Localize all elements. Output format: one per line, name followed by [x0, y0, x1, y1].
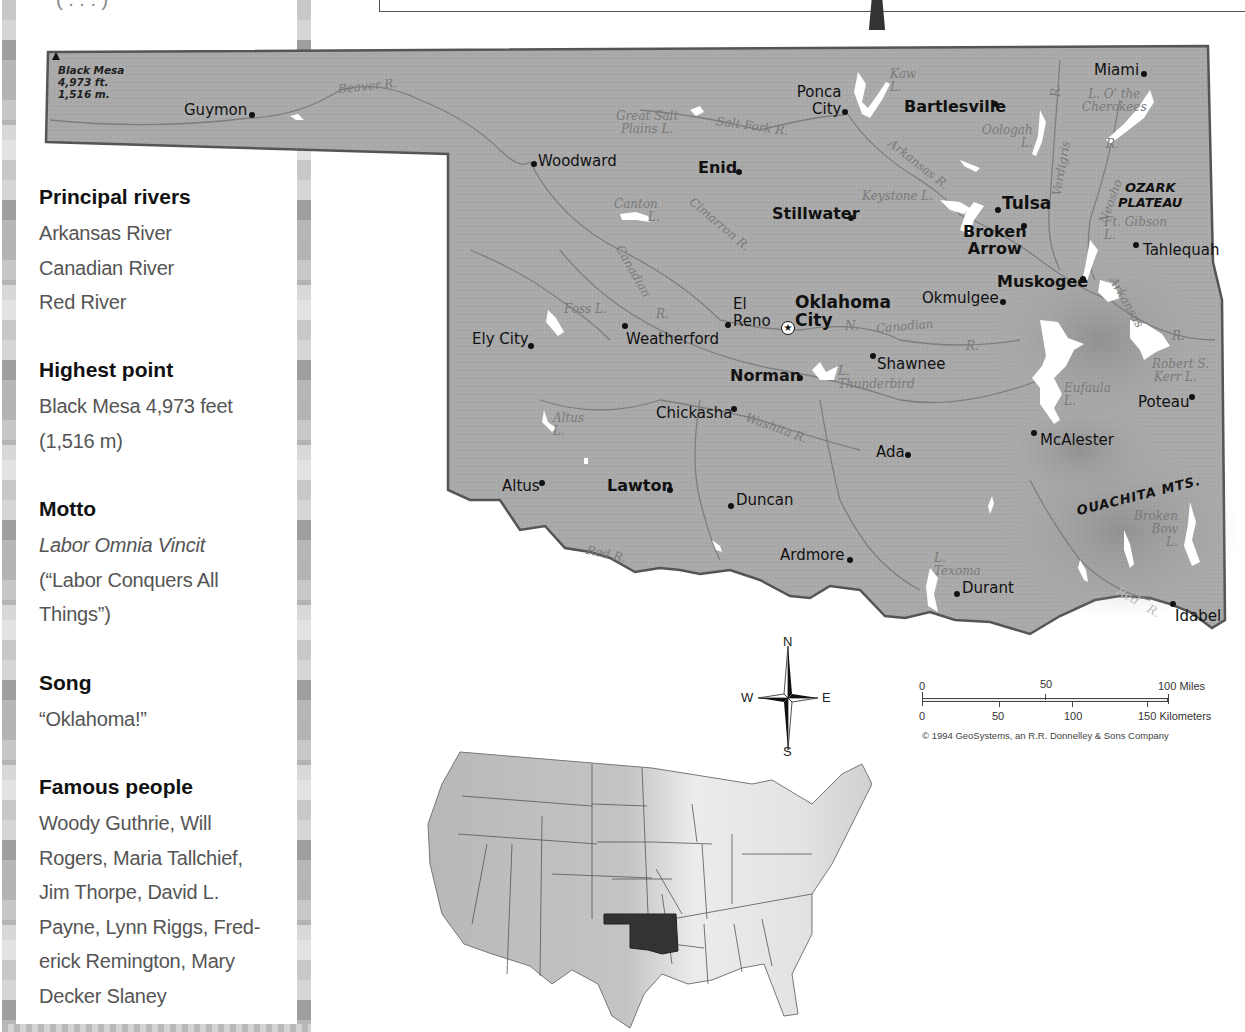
city-dot-icon: [622, 323, 628, 329]
fact-line: Jim Thorpe, David L.: [39, 875, 299, 910]
scale-km-150: 150 Kilometers: [1138, 710, 1211, 722]
fact-heading: Principal rivers: [39, 184, 299, 210]
city-dot-icon: [1141, 71, 1147, 77]
city-ardmore: Ardmore: [780, 547, 845, 564]
lake-label: Broken Bow L.: [1134, 510, 1178, 549]
fact-line: Black Mesa 4,973 feet: [39, 389, 299, 424]
city-miami: Miami: [1094, 62, 1139, 79]
fact-heading: Song: [39, 670, 299, 696]
lake-label: Ft. Gibson L.: [1104, 216, 1167, 242]
fact-line: (1,516 m): [39, 424, 299, 459]
city-mcalester: McAlester: [1040, 432, 1114, 449]
compass-north-label: N: [783, 634, 792, 649]
river-label: R.: [966, 340, 979, 353]
fact-line: Canadian River: [39, 251, 299, 286]
city-dot-icon: [1031, 430, 1037, 436]
fact-line: Red River: [39, 285, 299, 320]
fact-line: Things”): [39, 597, 299, 632]
fact-line: Rogers, Maria Tallchief,: [39, 841, 299, 876]
city-duncan: Duncan: [736, 492, 794, 509]
city-ada: Ada: [876, 444, 905, 461]
city-dot-icon: [1000, 299, 1006, 305]
copyright-notice: © 1994 GeoSystems, an R.R. Donnelley & S…: [922, 730, 1169, 741]
city-dot-icon: [954, 591, 960, 597]
city-norman: Norman: [730, 367, 801, 384]
fact-highest-point: Highest point Black Mesa 4,973 feet (1,5…: [39, 357, 299, 458]
scale-tick: [999, 702, 1000, 707]
river-label: Salt Fork R.: [715, 115, 789, 138]
city-tahlequah: Tahlequah: [1143, 242, 1220, 259]
city-dot-icon: [905, 452, 911, 458]
fact-heading: Highest point: [39, 357, 299, 383]
fact-line: erick Remington, Mary: [39, 944, 299, 979]
river-label: R.: [1106, 138, 1119, 151]
compass-rose: N S E W: [738, 632, 838, 762]
city-stillwater: Stillwater: [772, 205, 860, 222]
fact-heading: Motto: [39, 496, 299, 522]
city-altus: Altus: [502, 478, 540, 495]
city-weatherford: Weatherford: [626, 331, 719, 348]
river-label: Arkansas: [1106, 275, 1145, 330]
us-outline: [412, 744, 872, 1032]
river-label: R.: [656, 308, 669, 321]
river-label: R.: [1050, 84, 1063, 97]
top-frame-box: [379, 0, 1245, 12]
city-poteau: Poteau: [1138, 394, 1190, 411]
scale-tick: [1045, 694, 1046, 700]
river-label: Cimarron R.: [687, 196, 753, 254]
fact-heading: Famous people: [39, 774, 299, 800]
city-tulsa: Tulsa: [1002, 195, 1051, 212]
scale-tick: [1147, 702, 1148, 707]
scale-tick: [1168, 694, 1169, 704]
city-enid: Enid: [698, 159, 737, 176]
city-guymon: Guymon: [184, 102, 247, 119]
city-woodward: Woodward: [538, 153, 617, 170]
scale-miles-100: 100 Miles: [1158, 680, 1205, 692]
city-dot-icon: [847, 557, 853, 563]
city-dot-icon: [995, 207, 1001, 213]
city-dot-icon: [1189, 394, 1195, 400]
city-lawton: Lawton: [607, 477, 673, 494]
river-label: Arkansas R.: [886, 137, 951, 192]
fact-line: Labor Omnia Vincit: [39, 528, 299, 563]
us-inset-map: [412, 744, 872, 1032]
river-label: Canadian: [613, 243, 653, 299]
river-label: Red R.: [585, 544, 627, 565]
scale-km-50: 50: [992, 710, 1004, 722]
compass-west-label: W: [741, 690, 753, 705]
sidebar-bottom-border: [2, 1024, 311, 1032]
city-muskogee: Muskogee: [997, 273, 1088, 290]
city-dot-icon: [531, 161, 537, 167]
city-durant: Durant: [962, 580, 1014, 597]
region-ozark-plateau: OZARK PLATEAU: [1118, 180, 1182, 210]
city-dot-icon: [1133, 242, 1139, 248]
fact-song: Song “Oklahoma!”: [39, 670, 299, 737]
scale-tick: [922, 692, 923, 706]
scale-miles-0: 0: [919, 680, 925, 692]
city-okmulgee: Okmulgee: [922, 290, 999, 307]
fact-line: Woody Guthrie, Will: [39, 806, 299, 841]
lake-label: Robert S. Kerr L.: [1152, 358, 1209, 384]
fact-famous-people: Famous people Woody Guthrie, Will Rogers…: [39, 774, 299, 1013]
city-broken-arrow: Broken Arrow: [963, 223, 1027, 257]
city-ely-city: Ely City: [472, 331, 529, 348]
fact-line: (“Labor Conquers All: [39, 563, 299, 598]
lake-label: Great Salt Plains L.: [616, 110, 678, 136]
scale-tick: [1072, 702, 1073, 707]
lake-label: Foss L.: [564, 303, 607, 316]
scale-km-0: 0: [919, 710, 925, 722]
city-bartlesville: Bartlesville: [904, 98, 1006, 115]
river-label: R.: [1172, 330, 1185, 343]
river-label: Beaver R.: [337, 77, 397, 96]
lake-label: L. Thunderbird: [838, 365, 915, 391]
lake-label: Keystone L.: [862, 190, 933, 203]
sidebar-right-border: [297, 0, 311, 1032]
city-ponca-city: Ponca City: [796, 84, 841, 118]
fact-panel: ( . . . ) Principal rivers Arkansas Rive…: [16, 0, 297, 1024]
fact-principal-rivers: Principal rivers Arkansas River Canadian…: [39, 184, 299, 320]
river-label: Verdigris: [1050, 140, 1072, 197]
city-chickasha: Chickasha: [656, 405, 733, 422]
sidebar-left-border: [2, 0, 16, 1032]
peak-label: Black Mesa 4,973 ft. 1,516 m.: [58, 64, 124, 100]
lake-label: Oologah L.: [982, 124, 1033, 150]
